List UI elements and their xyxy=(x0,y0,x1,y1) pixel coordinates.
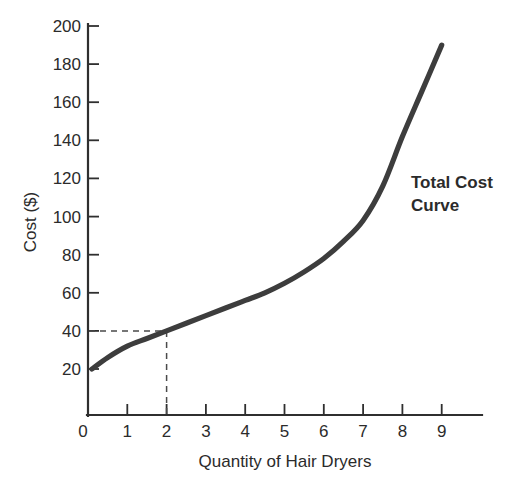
y-tick-label-200: 200 xyxy=(53,17,81,36)
x-tick-label-7: 7 xyxy=(358,422,367,441)
x-tick-label-1: 1 xyxy=(123,422,132,441)
y-tick-label-40: 40 xyxy=(62,322,81,341)
y-tick-label-180: 180 xyxy=(53,55,81,74)
y-tick-label-100: 100 xyxy=(53,208,81,227)
x-tick-label-3: 3 xyxy=(201,422,210,441)
x-tick-label-2: 2 xyxy=(162,422,171,441)
x-axis-title: Quantity of Hair Dryers xyxy=(199,452,372,471)
y-tick-label-140: 140 xyxy=(53,131,81,150)
annotation-line-1: Total Cost xyxy=(411,173,493,192)
x-tick-label-8: 8 xyxy=(398,422,407,441)
x-tick-label-4: 4 xyxy=(240,422,249,441)
x-tick-label-6: 6 xyxy=(319,422,328,441)
y-tick-label-60: 60 xyxy=(62,284,81,303)
x-tick-label-5: 5 xyxy=(280,422,289,441)
y-tick-label-80: 80 xyxy=(62,246,81,265)
y-tick-label-120: 120 xyxy=(53,169,81,188)
y-tick-label-160: 160 xyxy=(53,93,81,112)
annotation-line-2: Curve xyxy=(411,196,459,215)
x-tick-label-0: 0 xyxy=(78,422,87,441)
total-cost-curve-chart: 200 180 160 140 120 100 80 60 40 20 Cost… xyxy=(0,0,506,484)
x-tick-label-9: 9 xyxy=(437,422,446,441)
y-tick-label-20: 20 xyxy=(62,360,81,379)
y-axis-title: Cost ($) xyxy=(21,192,40,252)
